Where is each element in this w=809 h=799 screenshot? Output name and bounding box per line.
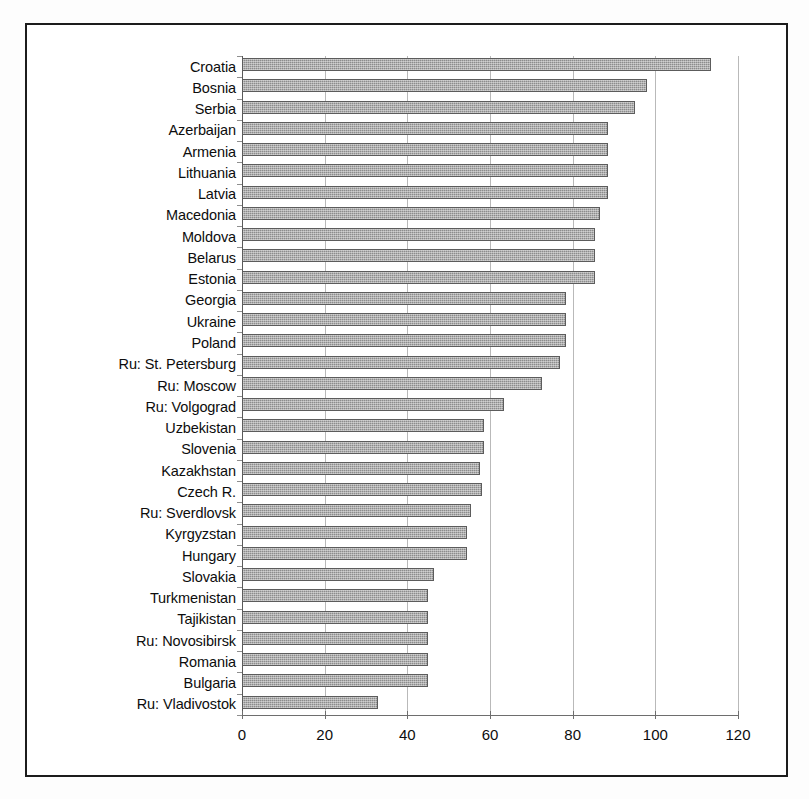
value-tick-0 <box>242 711 243 719</box>
value-tick-label: 40 <box>399 726 416 743</box>
value-tick-label: 100 <box>643 726 668 743</box>
value-tick-label: 120 <box>725 726 750 743</box>
value-tick-100 <box>655 711 656 719</box>
value-tick-120 <box>738 711 739 719</box>
value-tick-label: 0 <box>238 726 246 743</box>
value-tick-60 <box>490 711 491 719</box>
value-tick-20 <box>325 711 326 719</box>
value-tick-label: 80 <box>564 726 581 743</box>
value-tick-label: 20 <box>316 726 333 743</box>
chart-canvas: CroatiaBosniaSerbiaAzerbaijanArmeniaLith… <box>0 0 809 799</box>
value-tick-80 <box>573 711 574 719</box>
value-tick-40 <box>407 711 408 719</box>
value-axis-labels: 020406080100120 <box>0 726 809 752</box>
value-tick-label: 60 <box>482 726 499 743</box>
value-axis-ticks <box>0 0 809 799</box>
